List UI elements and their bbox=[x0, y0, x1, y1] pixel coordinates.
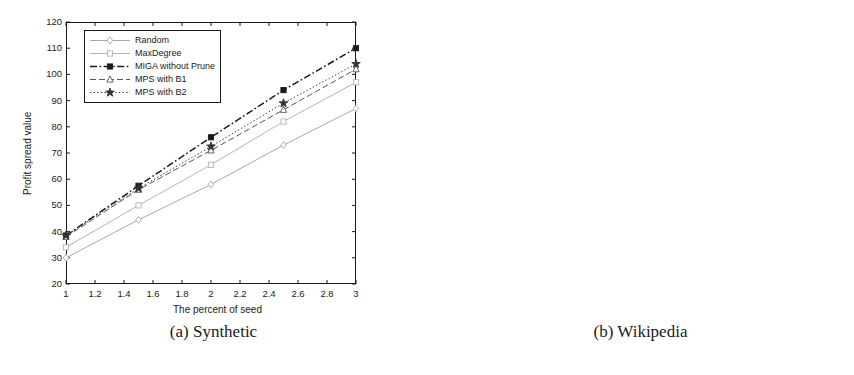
y-tick-label: 40 bbox=[32, 227, 62, 237]
y-tick-label: 90 bbox=[32, 96, 62, 106]
legend-synthetic: RandomMaxDegreeMIGA without PruneMPS wit… bbox=[84, 30, 221, 103]
legend-marker-icon bbox=[88, 86, 132, 99]
legend-marker-icon bbox=[88, 60, 132, 73]
x-tick-label: 2 bbox=[208, 289, 213, 299]
legend-marker-icon bbox=[88, 73, 132, 86]
x-tick-label: 1.6 bbox=[146, 289, 159, 299]
figure-container: 11.21.41.61.822.22.42.62.832030405060708… bbox=[0, 0, 854, 375]
y-tick-label: 120 bbox=[32, 17, 62, 27]
legend-item-label: MPS with B1 bbox=[132, 75, 187, 84]
y-tick-label: 30 bbox=[32, 253, 62, 263]
legend-item: MIGA without Prune bbox=[88, 60, 215, 73]
y-tick-label: 60 bbox=[32, 174, 62, 184]
x-tick-label: 2.2 bbox=[233, 289, 246, 299]
y-tick-label: 70 bbox=[32, 148, 62, 158]
legend-marker-icon bbox=[88, 47, 132, 60]
legend-item-label: MIGA without Prune bbox=[132, 62, 215, 71]
legend-item-label: MaxDegree bbox=[132, 49, 182, 58]
legend-item: MaxDegree bbox=[88, 47, 215, 60]
y-tick-label: 20 bbox=[32, 279, 62, 289]
data-lines-wikipedia bbox=[427, 0, 854, 315]
caption-synthetic: (a) Synthetic bbox=[0, 322, 427, 342]
chart-panel-wikipedia: 11.21.41.61.822.22.42.62.831002003004005… bbox=[427, 0, 854, 375]
y-axis-title-synthetic: Profit spread value bbox=[22, 112, 33, 195]
plot-area-synthetic: 11.21.41.61.822.22.42.62.832030405060708… bbox=[0, 0, 427, 315]
x-tick-label: 1 bbox=[63, 289, 68, 299]
caption-wikipedia: (b) Wikipedia bbox=[427, 322, 854, 342]
y-tick-label: 50 bbox=[32, 201, 62, 211]
x-tick-label: 2.8 bbox=[320, 289, 333, 299]
x-tick-label: 1.4 bbox=[117, 289, 130, 299]
legend-item: Random bbox=[88, 34, 215, 47]
x-tick-label: 2.6 bbox=[291, 289, 304, 299]
x-tick-label: 3 bbox=[353, 289, 358, 299]
y-tick-label: 100 bbox=[32, 70, 62, 80]
y-tick-label: 110 bbox=[32, 43, 62, 53]
y-tick-label: 80 bbox=[32, 122, 62, 132]
x-tick-label: 2.4 bbox=[262, 289, 275, 299]
legend-item: MPS with B1 bbox=[88, 73, 215, 86]
legend-item-label: MPS with B2 bbox=[132, 88, 187, 97]
x-axis-title-synthetic: The percent of seed bbox=[173, 304, 262, 315]
plot-area-wikipedia: 11.21.41.61.822.22.42.62.831002003004005… bbox=[427, 0, 854, 315]
legend-marker-icon bbox=[88, 34, 132, 47]
legend-item: MPS with B2 bbox=[88, 86, 215, 99]
chart-panel-synthetic: 11.21.41.61.822.22.42.62.832030405060708… bbox=[0, 0, 427, 375]
x-tick-label: 1.2 bbox=[88, 289, 101, 299]
x-tick-label: 1.8 bbox=[175, 289, 188, 299]
legend-item-label: Random bbox=[132, 36, 169, 45]
